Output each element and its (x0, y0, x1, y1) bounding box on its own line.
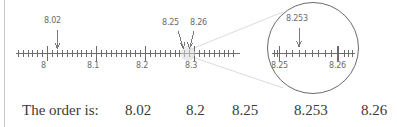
magnifier-annotation-label-8-253: 8.253 (286, 14, 308, 23)
order-value-5: 8.26 (361, 102, 387, 119)
number-line-figure: 8 8.1 8.2 8.3 8.02 8.25 8.26 8.253 8.25 … (0, 0, 397, 100)
main-annotation-arrows (55, 30, 194, 49)
magnifier-group (268, 3, 359, 94)
main-annotation-label-8-25: 8.25 (162, 18, 179, 27)
main-tick-label-8: 8 (41, 61, 46, 70)
order-value-4: 8.253 (294, 102, 328, 119)
main-tick-label-8-3: 8.3 (185, 61, 197, 70)
arrow-shaft-8-25 (178, 31, 183, 47)
number-line-svg (0, 0, 397, 100)
order-answer-row: The order is: 8.02 8.2 8.25 8.253 8.26 (0, 99, 397, 127)
main-annotation-label-8-02: 8.02 (44, 16, 61, 25)
main-number-line-group (16, 30, 240, 61)
magnifier-tick-label-8-25: 8.25 (271, 61, 288, 70)
worksheet-figure-page: 8 8.1 8.2 8.3 8.02 8.25 8.26 8.253 8.25 … (0, 0, 397, 127)
main-tick-label-8-1: 8.1 (87, 61, 99, 70)
main-tick-label-8-2: 8.2 (136, 61, 148, 70)
order-caption: The order is: (22, 102, 99, 119)
order-value-2: 8.2 (186, 102, 205, 119)
magnifier-circle-outline (268, 3, 359, 94)
magnifier-tick-label-8-26: 8.26 (329, 61, 346, 70)
order-value-1: 8.02 (125, 102, 151, 119)
order-value-3: 8.25 (232, 102, 258, 119)
main-annotation-label-8-26: 8.26 (190, 18, 207, 27)
